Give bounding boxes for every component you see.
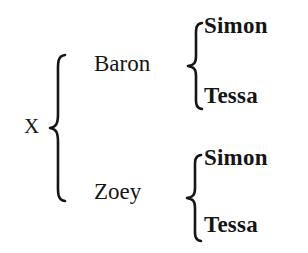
tree-diagram-canvas: X Baron Zoey Simon Tessa Simon Tessa: [0, 0, 308, 253]
node-label-baron: Baron: [94, 52, 150, 75]
zoey-brace: [185, 152, 205, 244]
node-label-zoey: Zoey: [94, 180, 141, 203]
leaf-label-tessa-baron: Tessa: [204, 84, 258, 107]
leaf-label-tessa-zoey: Tessa: [204, 213, 258, 236]
baron-brace: [186, 20, 206, 112]
leaf-label-simon-zoey: Simon: [204, 146, 268, 169]
outer-brace: [48, 52, 70, 204]
root-node-label: X: [24, 116, 39, 137]
leaf-label-simon-baron: Simon: [204, 14, 268, 37]
